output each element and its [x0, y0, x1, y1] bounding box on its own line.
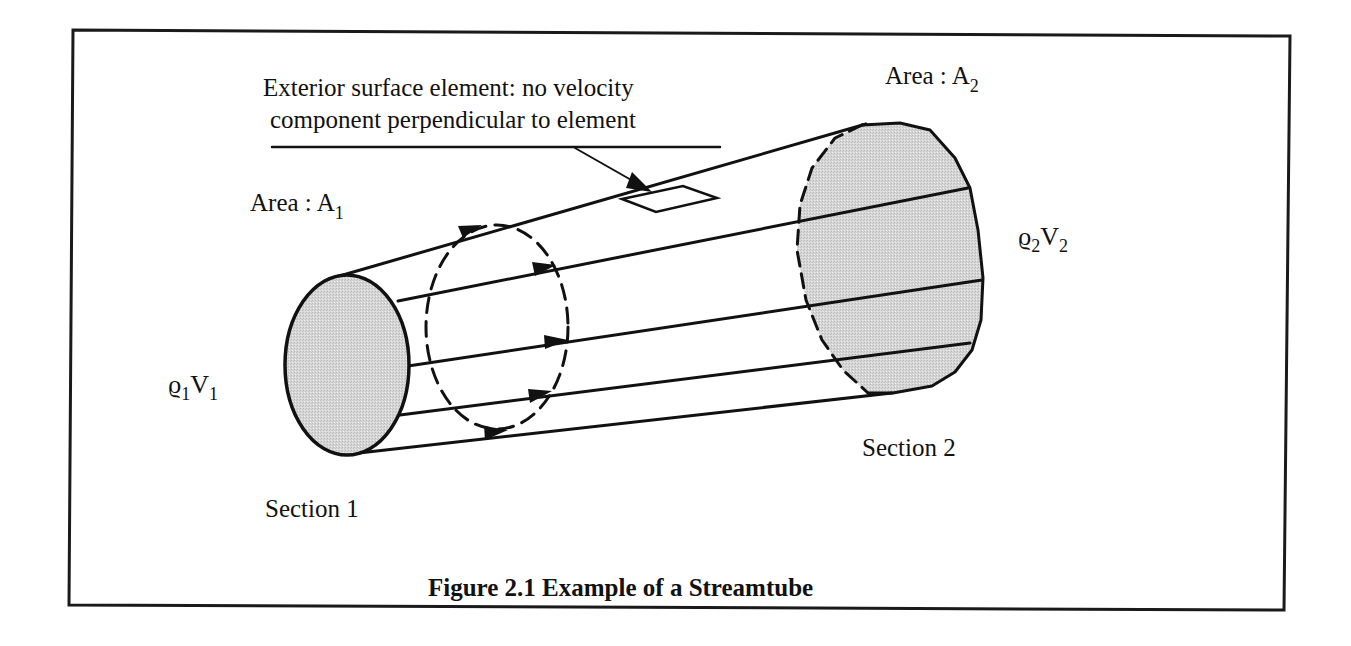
section-2-label: Section 2: [862, 434, 956, 461]
figure-frame: [69, 30, 1290, 610]
section-1-label: Section 1: [265, 495, 359, 522]
annotation-line-2: component perpendicular to element: [270, 106, 636, 133]
annotation-line-1: Exterior surface element: no velocity: [263, 74, 634, 101]
figure-caption: Figure 2.1 Example of a Streamtube: [428, 574, 813, 601]
section-1-face: [285, 275, 409, 455]
figure-canvas: Exterior surface element: no velocity co…: [0, 0, 1351, 646]
